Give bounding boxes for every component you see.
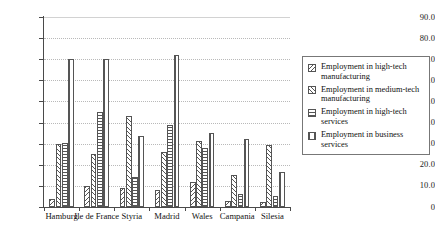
- y-tick-label: 20.0: [399, 160, 435, 169]
- diagonal-forward-swatch-icon: [308, 86, 316, 94]
- bar: [62, 143, 68, 207]
- bar-group: [114, 17, 149, 207]
- bar: [68, 59, 74, 207]
- bar: [91, 154, 97, 207]
- legend-item-label: Employment in high-tech manufacturing: [321, 62, 425, 81]
- bar-group: [220, 17, 255, 207]
- bar: [190, 182, 196, 207]
- y-tick-label: 10.0: [399, 181, 435, 190]
- bar: [231, 175, 237, 207]
- legend-item[interactable]: Employment in business services: [308, 130, 425, 149]
- y-tick-label: 80.0: [399, 34, 435, 43]
- legend-item[interactable]: Employment in medium-tech manufacturing: [308, 85, 425, 104]
- bar: [225, 201, 231, 207]
- legend-item-label: Employment in business services: [321, 130, 425, 149]
- bar-chart: 90.080.070.060.050.040.030.020.010.00 Ha…: [0, 0, 435, 248]
- bar-group: [79, 17, 114, 207]
- legend-item[interactable]: Employment in high-tech services: [308, 107, 425, 126]
- bar: [49, 199, 55, 207]
- legend-item-label: Employment in medium-tech manufacturing: [321, 85, 425, 104]
- bar: [279, 172, 285, 207]
- diagonal-backward-swatch-icon: [308, 64, 316, 72]
- x-axis-labels: HamburgIle de FranceStyriaMadridWalesCam…: [44, 211, 290, 245]
- bar: [266, 145, 272, 207]
- bar: [120, 188, 126, 207]
- y-tick-label: 90.0: [399, 13, 435, 22]
- plot-area: [44, 17, 290, 207]
- bar: [209, 133, 215, 207]
- bar: [161, 152, 167, 207]
- vertical-lines-swatch-icon: [308, 132, 316, 140]
- bar-group: [44, 17, 79, 207]
- bar: [260, 202, 266, 207]
- x-axis-line: [43, 207, 291, 208]
- bar: [244, 139, 250, 207]
- y-tick-label: 0: [399, 203, 435, 212]
- bar: [84, 186, 90, 207]
- bar: [238, 194, 244, 207]
- bar-groups: [44, 17, 290, 207]
- bar: [174, 55, 180, 207]
- chart-legend: Employment in high-tech manufacturing Em…: [302, 56, 430, 155]
- bar: [202, 148, 208, 207]
- bar: [126, 116, 132, 207]
- bar-group: [185, 17, 220, 207]
- bar: [196, 141, 202, 208]
- bar: [155, 190, 161, 207]
- bar: [132, 177, 138, 207]
- bar: [97, 112, 103, 207]
- bar: [273, 196, 279, 207]
- x-axis-category-label: Silesia: [249, 211, 296, 222]
- bar: [167, 125, 173, 207]
- legend-item-label: Employment in high-tech services: [321, 107, 425, 126]
- bar: [138, 136, 144, 207]
- horizontal-lines-swatch-icon: [308, 109, 316, 117]
- bar-group: [149, 17, 184, 207]
- bar: [103, 59, 109, 207]
- bar-group: [255, 17, 290, 207]
- legend-item[interactable]: Employment in high-tech manufacturing: [308, 62, 425, 81]
- bar: [56, 144, 62, 207]
